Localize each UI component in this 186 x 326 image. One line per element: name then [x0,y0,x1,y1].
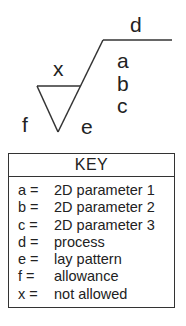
label-f: f [22,114,28,135]
key-row: d =process [9,234,174,251]
key-meaning: lay pattern [54,251,174,268]
label-e: e [81,116,93,137]
label-d: d [130,14,142,35]
key-meaning: allowance [54,268,174,285]
key-symbol: x = [9,286,54,303]
key-symbol: a = [9,182,54,199]
key-row: c =2D parameter 3 [9,217,174,234]
key-symbol: f = [9,268,54,285]
label-a: a [117,50,129,71]
key-symbol: c = [9,217,54,234]
key-symbol: b = [9,199,54,216]
key-row: e =lay pattern [9,251,174,268]
key-row: a =2D parameter 1 [9,182,174,199]
key-rows: a =2D parameter 1 b =2D parameter 2 c =2… [9,177,174,303]
key-symbol: e = [9,251,54,268]
key-row: x =not allowed [9,286,174,303]
key-meaning: not allowed [54,286,174,303]
key-meaning: 2D parameter 1 [54,182,174,199]
key-row: f =allowance [9,268,174,285]
key-meaning: process [54,234,174,251]
key-box: KEY a =2D parameter 1 b =2D parameter 2 … [8,153,175,308]
label-c: c [117,95,128,116]
label-x: x [53,58,64,79]
key-row: b =2D parameter 2 [9,199,174,216]
key-symbol: d = [9,234,54,251]
triangle-left [37,86,58,132]
label-b: b [117,73,129,94]
key-meaning: 2D parameter 3 [54,217,174,234]
key-title: KEY [9,154,174,177]
key-meaning: 2D parameter 2 [54,199,174,216]
